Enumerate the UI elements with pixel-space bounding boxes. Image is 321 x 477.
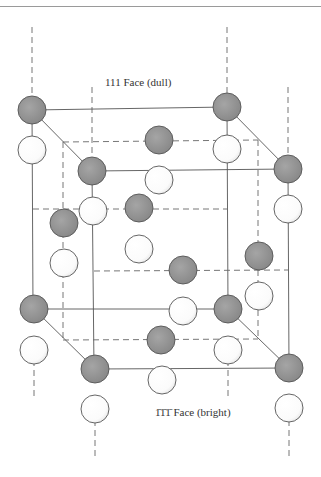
dark-atom <box>275 354 303 382</box>
dark-atom <box>81 355 109 383</box>
dark-atom <box>214 295 242 323</box>
dark-atom <box>213 93 241 121</box>
bottom-face-text: Face (bright) <box>171 406 231 419</box>
light-atom <box>169 297 197 325</box>
light-atom <box>274 195 302 223</box>
top-face-label: 111 Face (dull) <box>105 76 172 89</box>
light-atom <box>50 249 78 277</box>
dark-atom <box>145 126 173 154</box>
dark-atom <box>78 157 106 185</box>
dark-atom <box>20 295 48 323</box>
light-atom <box>275 394 303 422</box>
light-atom <box>213 135 241 163</box>
light-atom <box>20 336 48 364</box>
dark-atom <box>18 96 46 124</box>
bottom-face-label: 1̄1̄1̄ Face (bright) <box>155 406 231 419</box>
crystal-structure-diagram: 111 Face (dull) 1̄1̄1̄ Face (bright) <box>0 0 321 477</box>
light-atom <box>245 282 273 310</box>
light-atom <box>125 235 153 263</box>
dark-atom <box>50 209 78 237</box>
light-atom <box>81 395 109 423</box>
light-atom <box>148 366 176 394</box>
dark-atom <box>274 155 302 183</box>
dark-atom <box>169 256 197 284</box>
light-atom <box>214 336 242 364</box>
dark-atom <box>147 326 175 354</box>
dark-atom <box>245 242 273 270</box>
light-atom <box>18 136 46 164</box>
light-atom <box>79 197 107 225</box>
dark-atom <box>125 194 153 222</box>
dark-atoms <box>18 93 303 383</box>
light-atoms <box>18 135 303 423</box>
light-atom <box>145 166 173 194</box>
